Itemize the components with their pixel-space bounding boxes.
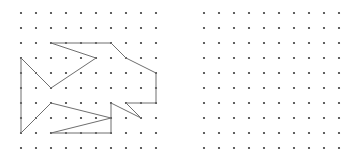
grid-dot bbox=[293, 42, 295, 44]
grid-dot bbox=[323, 147, 325, 149]
grid-dot bbox=[110, 147, 112, 149]
grid-dot bbox=[125, 27, 127, 29]
right-panel bbox=[178, 0, 357, 154]
figure-root bbox=[0, 0, 357, 154]
grid-dot bbox=[50, 147, 52, 149]
grid-dot bbox=[95, 87, 97, 89]
grid-dot bbox=[248, 87, 250, 89]
grid-dot bbox=[95, 117, 97, 119]
grid-dot bbox=[65, 147, 67, 149]
grid-dot bbox=[323, 42, 325, 44]
grid-dot bbox=[233, 117, 235, 119]
grid-dot bbox=[233, 147, 235, 149]
grid-dot bbox=[80, 147, 82, 149]
grid-dot bbox=[278, 57, 280, 59]
grid-dot bbox=[338, 27, 340, 29]
grid-dot bbox=[35, 102, 37, 104]
left-panel-canvas bbox=[0, 0, 178, 154]
grid-dot bbox=[338, 42, 340, 44]
grid-dot bbox=[338, 147, 340, 149]
grid-dot bbox=[278, 87, 280, 89]
grid-dot bbox=[218, 87, 220, 89]
grid-dot bbox=[278, 42, 280, 44]
grid-dot bbox=[140, 132, 142, 134]
left-panel bbox=[0, 0, 178, 154]
grid-dot bbox=[65, 72, 67, 74]
grid-dot bbox=[278, 27, 280, 29]
grid-dot bbox=[263, 147, 265, 149]
grid-dot bbox=[338, 57, 340, 59]
grid-dot bbox=[125, 132, 127, 134]
grid-dot bbox=[218, 132, 220, 134]
grid-dot bbox=[65, 27, 67, 29]
grid-dot bbox=[155, 132, 157, 134]
grid-dot bbox=[203, 132, 205, 134]
grid-dot bbox=[293, 27, 295, 29]
grid-dot bbox=[338, 87, 340, 89]
grid-dot bbox=[203, 117, 205, 119]
grid-dot bbox=[308, 132, 310, 134]
grid-dot bbox=[50, 117, 52, 119]
grid-dot bbox=[65, 102, 67, 104]
grid-dot bbox=[203, 27, 205, 29]
grid-dot bbox=[155, 147, 157, 149]
grid-dot bbox=[218, 27, 220, 29]
grid-dot bbox=[248, 132, 250, 134]
grid-dot bbox=[248, 117, 250, 119]
grid-dot bbox=[203, 12, 205, 14]
grid-dot bbox=[263, 117, 265, 119]
grid-dot bbox=[203, 72, 205, 74]
grid-dot bbox=[293, 72, 295, 74]
grid-dot bbox=[233, 87, 235, 89]
grid-dot bbox=[65, 117, 67, 119]
grid-dot bbox=[308, 72, 310, 74]
grid-dot bbox=[65, 87, 67, 89]
grid-dot bbox=[125, 87, 127, 89]
grid-dot bbox=[218, 117, 220, 119]
grid-dot bbox=[278, 117, 280, 119]
grid-dot bbox=[248, 42, 250, 44]
grid-dot bbox=[323, 12, 325, 14]
grid-dot bbox=[140, 147, 142, 149]
grid-dot bbox=[323, 87, 325, 89]
grid-dot bbox=[218, 57, 220, 59]
grid-dot bbox=[263, 87, 265, 89]
grid-dot bbox=[338, 132, 340, 134]
grid-dot bbox=[95, 102, 97, 104]
grid-dot bbox=[323, 117, 325, 119]
grid-dot bbox=[35, 12, 37, 14]
grid-dot bbox=[203, 87, 205, 89]
grid-dot bbox=[203, 147, 205, 149]
grid-dot bbox=[308, 102, 310, 104]
grid-dot bbox=[20, 147, 22, 149]
grid-dot bbox=[323, 132, 325, 134]
grid-dot bbox=[308, 57, 310, 59]
grid-dot bbox=[323, 102, 325, 104]
grid-dot bbox=[20, 42, 22, 44]
grid-dot bbox=[278, 12, 280, 14]
grid-dot bbox=[293, 102, 295, 104]
grid-dot bbox=[338, 102, 340, 104]
grid-dot bbox=[278, 72, 280, 74]
grid-dot bbox=[155, 117, 157, 119]
grid-dot bbox=[233, 12, 235, 14]
grid-dot bbox=[35, 57, 37, 59]
grid-dot bbox=[293, 147, 295, 149]
grid-dot bbox=[140, 12, 142, 14]
grid-dot bbox=[35, 27, 37, 29]
grid-dot bbox=[218, 102, 220, 104]
grid-dot bbox=[323, 57, 325, 59]
grid-dot bbox=[155, 27, 157, 29]
grid-dot bbox=[293, 87, 295, 89]
grid-dot bbox=[80, 12, 82, 14]
grid-dot bbox=[80, 72, 82, 74]
grid-dot bbox=[263, 12, 265, 14]
grid-dot bbox=[35, 42, 37, 44]
grid-dot bbox=[248, 72, 250, 74]
grid-dot bbox=[263, 42, 265, 44]
grid-dot bbox=[338, 117, 340, 119]
grid-dot bbox=[20, 27, 22, 29]
grid-dot bbox=[248, 57, 250, 59]
grid-dot bbox=[140, 42, 142, 44]
grid-dot bbox=[110, 72, 112, 74]
